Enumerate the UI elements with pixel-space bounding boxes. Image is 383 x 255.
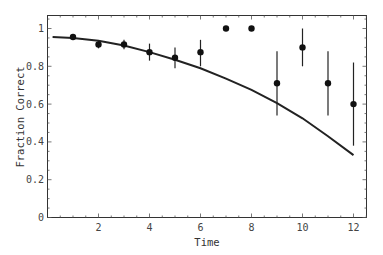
x-tick-label: 10 — [296, 222, 308, 233]
point-marker — [223, 25, 229, 31]
point-marker — [299, 44, 305, 50]
data-point — [197, 40, 203, 66]
chart: 24681012 00.20.40.60.81 Time Fraction Co… — [0, 0, 383, 255]
x-tick-label: 6 — [197, 222, 203, 233]
data-point — [299, 29, 305, 67]
model-curve — [53, 37, 354, 155]
x-tick-labels: 24681012 — [95, 222, 359, 233]
point-marker — [274, 80, 280, 86]
data-point — [70, 34, 76, 40]
point-marker — [350, 101, 356, 107]
x-axis-title: Time — [194, 236, 219, 248]
data-point — [172, 47, 178, 68]
point-marker — [121, 41, 127, 47]
x-tick-label: 4 — [146, 222, 152, 233]
x-tick-label: 2 — [95, 222, 101, 233]
x-tick-label: 8 — [248, 222, 254, 233]
y-tick-label: 0.6 — [26, 99, 44, 110]
data-point — [350, 63, 356, 146]
y-axis-title: Fraction Correct — [14, 66, 26, 167]
point-marker — [172, 55, 178, 61]
y-tick-label: 0 — [38, 212, 44, 223]
data-point — [274, 51, 280, 115]
data-point — [248, 25, 254, 31]
data-point — [121, 40, 127, 49]
y-tick-label: 1 — [38, 23, 44, 34]
axis-ticks — [48, 16, 367, 218]
data-point — [146, 44, 152, 61]
point-marker — [197, 49, 203, 55]
x-tick-label: 12 — [347, 222, 359, 233]
y-tick-label: 0.2 — [26, 174, 44, 185]
point-marker — [325, 80, 331, 86]
point-marker — [146, 49, 152, 55]
point-marker — [95, 41, 101, 47]
y-tick-labels: 00.20.40.60.81 — [26, 23, 44, 223]
data-point — [325, 51, 331, 115]
point-marker — [248, 25, 254, 31]
data-point — [223, 25, 229, 31]
y-tick-label: 0.8 — [26, 61, 44, 72]
y-tick-label: 0.4 — [26, 136, 44, 147]
point-marker — [70, 34, 76, 40]
plot-frame — [48, 16, 367, 218]
